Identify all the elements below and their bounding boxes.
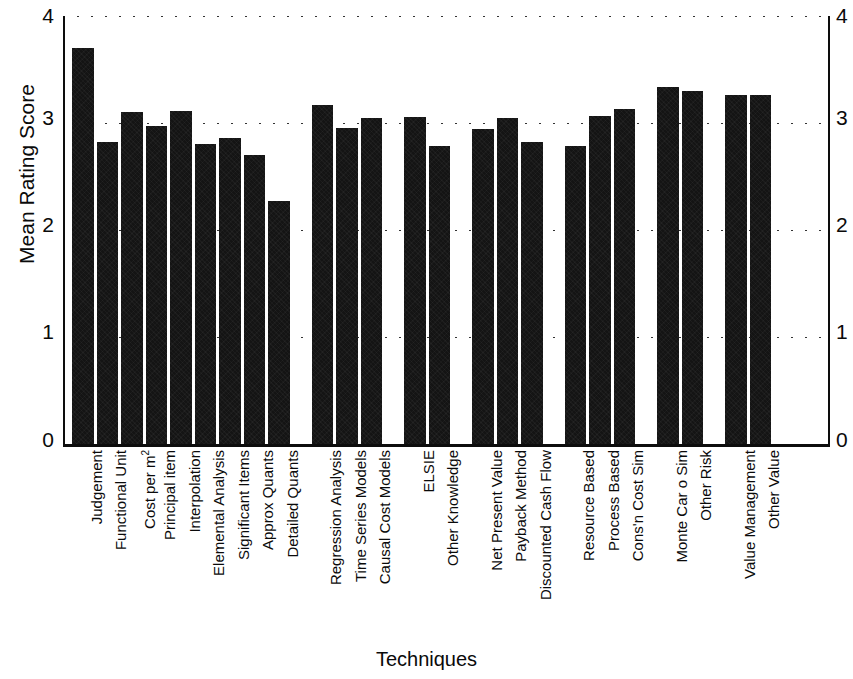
bar (146, 126, 168, 444)
bar (404, 117, 426, 444)
x-tick-label: Value Management (742, 450, 757, 579)
bar (521, 142, 543, 444)
x-axis-title: Techniques (0, 648, 853, 671)
bar (750, 95, 772, 444)
y-axis-title: Mean Rating Score (15, 59, 39, 289)
bar (121, 112, 143, 444)
x-tick-label: Detailed Quants (285, 450, 300, 558)
bar (336, 128, 358, 444)
bar (219, 138, 241, 444)
y-tick-right-1: 1 (836, 321, 853, 342)
x-tick-label: Other Knowledge (445, 450, 460, 566)
x-tick-label: Significant Items (236, 450, 251, 560)
x-tick-label: Monte Car o Sim (674, 450, 689, 563)
bar (565, 146, 587, 445)
bar (614, 109, 636, 444)
bar (497, 118, 519, 444)
y-tick-right-4: 4 (836, 5, 853, 26)
x-tick-label: Interpolation (187, 450, 202, 533)
x-tick-label: Net Present Value (489, 450, 504, 571)
y-tick-left-1: 1 (24, 321, 54, 342)
bar (361, 118, 383, 444)
x-tick-label: Process Based (606, 450, 621, 551)
x-tick-label: Elemental Analysis (211, 450, 226, 576)
bar (657, 87, 679, 444)
bar (72, 48, 94, 444)
y-axis-left-line (63, 16, 65, 444)
x-tick-label: Regression Analysis (328, 450, 343, 585)
bar-series (63, 16, 830, 444)
y-tick-left-3: 3 (24, 107, 54, 128)
x-tick-label: Other Risk (698, 450, 713, 521)
plot-area (63, 16, 830, 444)
x-tick-label: Discounted Cash Flow (538, 450, 553, 600)
x-tick-label: Approx Quants (260, 450, 275, 550)
x-tick-labels: JudgementFunctional UnitCost per m2Princ… (63, 450, 830, 640)
bar (725, 95, 747, 444)
x-tick-label: Other Value (766, 450, 781, 529)
x-tick-label: Cons'n Cost Sim (630, 450, 645, 561)
bar (589, 116, 611, 445)
bar (170, 111, 192, 444)
bar (312, 105, 334, 444)
y-tick-right-3: 3 (836, 107, 853, 128)
x-tick-label: Principal item (162, 450, 177, 540)
y-tick-right-0: 0 (836, 429, 853, 450)
bar (682, 91, 704, 444)
bar (97, 142, 119, 444)
x-tick-label: Functional Unit (113, 450, 128, 550)
x-tick-label: Resource Based (581, 450, 596, 561)
bar (429, 146, 451, 445)
bar (195, 144, 217, 444)
y-tick-left-0: 0 (24, 429, 54, 450)
y-tick-left-4: 4 (24, 5, 54, 26)
bar-chart: Mean Rating Score 4 3 2 1 0 4 3 2 1 0 Ju… (0, 0, 853, 679)
y-tick-left-2: 2 (24, 214, 54, 235)
y-tick-right-2: 2 (836, 214, 853, 235)
bar (268, 201, 290, 444)
x-axis-line (63, 444, 830, 447)
x-tick-label: ELSIE (421, 450, 436, 493)
x-tick-label: Payback Method (513, 450, 528, 562)
bar (244, 155, 266, 444)
bar (472, 129, 494, 444)
x-tick-label: Cost per m2 (138, 450, 157, 529)
x-tick-label: Time Series Models (353, 450, 368, 582)
x-tick-label: Judgement (89, 450, 104, 524)
y-axis-right-line (828, 16, 830, 444)
x-tick-label: Causal Cost Models (377, 450, 392, 584)
